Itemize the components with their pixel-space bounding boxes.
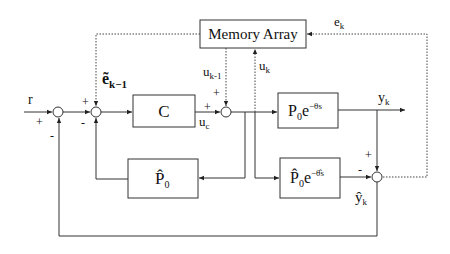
sign-s4-left: - (358, 163, 362, 177)
summing-junction-1 (53, 107, 63, 117)
sign-s3-top: + (213, 86, 220, 100)
plant-main: P (288, 102, 297, 119)
model-delay-main: P̂ (290, 168, 299, 186)
plant-block: P0e−θs (278, 93, 338, 128)
svg-text:uk-1: uk-1 (203, 64, 222, 81)
model-no-delay-block: P̂0 (128, 159, 198, 198)
svg-text:ẽk−1: ẽk−1 (102, 70, 127, 90)
block-diagram: Memory Array C P0e−θs P̂0 P̂0e−θ̂s r ẽk−… (0, 0, 450, 254)
wire-u-to-model-delay (255, 112, 279, 178)
signal-uc-sub: c (206, 121, 210, 131)
svg-text:uc: uc (199, 114, 210, 131)
signal-ukm1-sub: k-1 (210, 71, 222, 81)
wire-p0hat-to-s2 (96, 118, 128, 179)
model-delay-exp: −θ̂s (311, 168, 324, 178)
signal-ek-sub: k (340, 21, 345, 31)
memory-array-label: Memory Array (208, 26, 298, 42)
signal-yk-main: y (378, 90, 385, 105)
sign-s2-top: + (82, 95, 89, 109)
signal-r: r (28, 92, 33, 107)
sign-s1-r: + (36, 115, 43, 129)
summing-junction-4 (372, 172, 382, 182)
signal-yhat-sub: k (363, 197, 368, 207)
signal-uk-sub: k (266, 65, 271, 75)
sign-s1-fb: - (50, 129, 54, 143)
svg-text:ek: ek (334, 14, 345, 31)
summing-junction-2 (91, 107, 101, 117)
sign-s3-left: + (204, 100, 211, 114)
signal-etilde-sub: k−1 (109, 78, 127, 90)
sign-s2-bottom: - (81, 116, 85, 130)
svg-text:yk: yk (378, 90, 390, 107)
plant-exp: −θs (309, 101, 322, 111)
model-delay-block: P̂0e−θ̂s (280, 158, 340, 198)
svg-text:ŷk: ŷk (355, 189, 368, 207)
model-delay-rest: e (304, 169, 311, 186)
memory-array-block: Memory Array (200, 20, 306, 48)
svg-text:uk: uk (259, 58, 271, 75)
controller-block: C (133, 95, 195, 127)
sign-s4-top: + (365, 148, 372, 162)
signal-etilde-main: ẽ (102, 70, 109, 87)
model-no-delay-main: P̂ (155, 169, 164, 188)
plant-rest: e (302, 102, 309, 119)
signal-yk-sub: k (385, 97, 390, 107)
model-no-delay-sub: 0 (164, 179, 169, 190)
summing-junction-3 (221, 107, 231, 117)
controller-label: C (158, 102, 169, 121)
